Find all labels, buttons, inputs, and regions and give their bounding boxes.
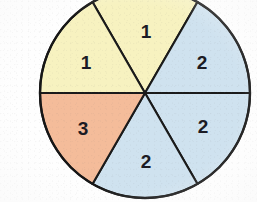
pie-chart-spinner: 1 2 2 2 3 1 [0,0,257,202]
pie-label-bottom: 2 [141,151,152,172]
pie-label-upper-left: 1 [81,52,92,73]
pie-label-lower-left: 3 [78,118,89,139]
spinner-figure: 1 2 2 2 3 1 [0,0,257,202]
pie-label-top: 1 [141,21,152,42]
pie-label-upper-right: 2 [197,52,208,73]
pie-label-lower-right: 2 [198,116,209,137]
